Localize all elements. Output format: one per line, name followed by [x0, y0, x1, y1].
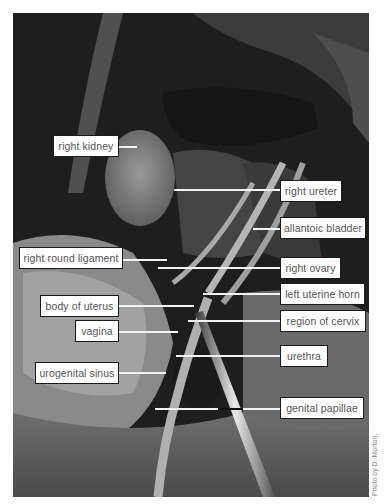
label-allantoic-bladder: allantoic bladder — [280, 217, 366, 239]
leader-urogenital-sinus — [119, 372, 166, 374]
label-right-ureter: right ureter — [280, 180, 342, 202]
leader-right-kidney — [119, 146, 137, 148]
label-urethra: urethra — [280, 345, 328, 367]
label-right-kidney: right kidney — [53, 135, 119, 157]
leader-right-round-ligament — [123, 259, 167, 261]
label-right-round-ligament: right round ligament — [19, 247, 123, 269]
label-genital-papillae: genital papillae — [280, 397, 364, 419]
label-left-uterine-horn: left uterine horn — [280, 283, 365, 305]
leader-allantoic-bladder — [253, 228, 280, 230]
label-body-of-uterus: body of uterus — [40, 295, 119, 317]
label-region-of-cervix: region of cervix — [280, 310, 366, 332]
leader-body-of-uterus — [119, 305, 194, 307]
leader-vagina — [119, 331, 178, 333]
leader-left-uterine-horn — [203, 293, 280, 295]
leader-right-ovary — [158, 267, 280, 269]
leader-region-of-cervix — [188, 320, 280, 322]
label-right-ovary: right ovary — [280, 257, 341, 279]
leader-urethra — [176, 355, 280, 357]
label-urogenital-sinus: urogenital sinus — [35, 362, 119, 384]
leader-right-ureter — [174, 189, 280, 191]
leader-genital-papillae-probe-segment — [218, 408, 243, 410]
photo-credit: Photo by D. Morton. — [371, 434, 378, 496]
label-vagina: vagina — [75, 320, 119, 342]
